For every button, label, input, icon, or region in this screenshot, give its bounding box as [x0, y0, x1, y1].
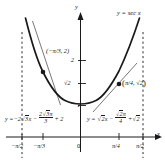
left-eq-var: x − [29, 115, 37, 122]
x-tick-label-neg-pi-over-3: −π/3 [33, 143, 45, 149]
left-eq-coef: −2 [13, 115, 20, 122]
x-axis [6, 133, 162, 140]
tangency-point-left [41, 70, 46, 75]
right-eq-frac-num-pi: π [123, 111, 126, 117]
left-eq-radical-1: √3 [21, 115, 29, 122]
y-axis-label: y [75, 4, 78, 11]
right-eq-frac-denominator: 4 [115, 118, 127, 124]
right-eq-radicand-2: 2 [119, 110, 123, 117]
left-eq-tail: + 2 [55, 115, 64, 122]
secant-tangent-figure: y x y = sec x −π/2 −π/3 0 π/4 π/2 2 √2 1… [0, 0, 165, 164]
y-tick-label-sqrt2: √2 [64, 80, 71, 86]
point-right-x: π/4 [125, 79, 133, 86]
paren-close: ) [143, 80, 146, 87]
left-eq-frac-numerator: 2√3π [39, 110, 54, 118]
y-axis [78, 12, 87, 152]
x-tick-label-pi-over-2: π/2 [136, 143, 144, 149]
right-eq-radical-1: √2 [97, 115, 105, 122]
curve-label: y = sec x [117, 10, 141, 17]
y-tick-label-2: 2 [71, 57, 74, 63]
right-tangent-equation: y = √2x − √2π4 +√2 [87, 110, 140, 125]
point-label-right: (π/4, √2) [122, 80, 146, 87]
secant-curve [26, 18, 140, 104]
right-eq-frac-numerator: √2π [115, 110, 127, 118]
x-axis-label: x [157, 131, 160, 138]
right-eq-radical-3: √2 [132, 115, 140, 122]
x-tick-label-pi-over-4: π/4 [112, 143, 120, 149]
point-right-y: √2 [136, 79, 143, 86]
y-tick-label-1: 1 [77, 102, 80, 108]
tangency-point-right [117, 82, 122, 87]
left-tangent-equation: y =−2√3x − 2√3π3 + 2 [5, 110, 63, 125]
right-eq-lhs: y = [87, 115, 95, 122]
left-eq-radicand-1: 3 [25, 115, 29, 122]
left-eq-frac-num-pi: π [50, 111, 53, 117]
tangent-line-right [93, 63, 137, 112]
right-eq-radicand-3: 2 [136, 115, 140, 122]
point-label-left: (−π/3, 2) [46, 48, 69, 54]
left-eq-radicand-2: 3 [46, 110, 50, 117]
left-eq-fraction: 2√3π3 [39, 110, 54, 125]
left-eq-frac-denominator: 3 [39, 118, 54, 124]
right-eq-var: x − [105, 115, 113, 122]
origin-label: 0 [77, 143, 80, 150]
left-eq-radical-2: √3 [42, 110, 50, 117]
right-eq-radicand-1: 2 [101, 115, 105, 122]
x-tick-label-neg-pi-over-2: −π/2 [11, 143, 23, 149]
right-eq-fraction: √2π4 [115, 110, 127, 125]
right-eq-radical-2: √2 [115, 110, 123, 117]
